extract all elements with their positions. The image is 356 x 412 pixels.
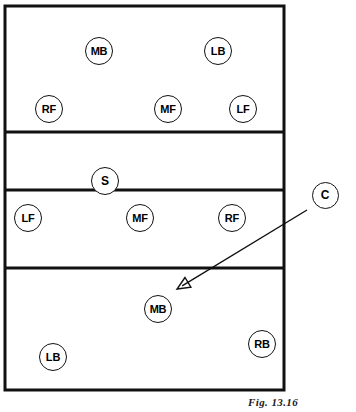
player-marker-near-rf: RF	[218, 204, 246, 232]
player-label-far-lf: LF	[236, 104, 249, 115]
player-marker-near-mf: MF	[126, 204, 154, 232]
player-label-near-lb: LB	[46, 352, 60, 363]
player-label-far-lb: LB	[211, 46, 225, 57]
callout-marker-c: C	[312, 182, 339, 209]
player-label-near-rb: RB	[254, 339, 270, 350]
player-marker-near-rb: RB	[248, 330, 276, 358]
player-marker-far-mf: MF	[154, 95, 182, 123]
volleyball-court-figure: MB LB RF MF LF S LF MF RF MB RB LB C Fig…	[0, 0, 356, 412]
player-marker-setter: S	[91, 167, 119, 195]
player-label-far-rf: RF	[42, 104, 56, 115]
player-marker-far-mb: MB	[85, 37, 113, 65]
player-marker-far-lb: LB	[204, 37, 232, 65]
player-marker-far-rf: RF	[35, 95, 63, 123]
figure-caption: Fig. 13.16	[248, 396, 298, 408]
player-marker-far-lf: LF	[229, 95, 257, 123]
player-label-near-lf: LF	[21, 213, 34, 224]
callout-label-c: C	[321, 189, 330, 201]
player-marker-near-lf: LF	[14, 204, 42, 232]
player-marker-near-mb: MB	[144, 295, 172, 323]
player-label-near-rf: RF	[225, 213, 239, 224]
player-label-setter: S	[101, 175, 109, 187]
player-label-near-mf: MF	[132, 213, 147, 224]
player-label-far-mb: MB	[91, 46, 108, 57]
court-outline	[5, 6, 284, 390]
player-label-far-mf: MF	[160, 104, 175, 115]
player-marker-near-lb: LB	[39, 343, 67, 371]
player-label-near-mb: MB	[150, 304, 167, 315]
